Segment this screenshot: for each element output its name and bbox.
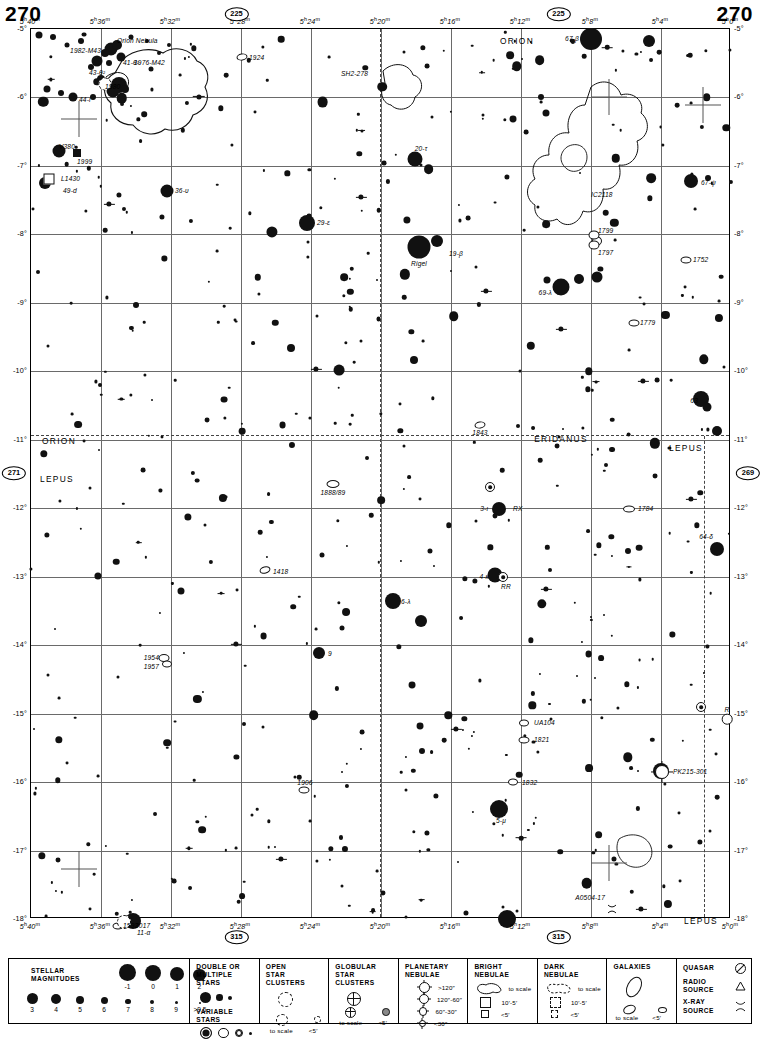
star: [137, 541, 140, 544]
star: [224, 73, 229, 78]
dec-tick-left: -6°: [17, 92, 27, 101]
galaxy-marker: [519, 737, 530, 744]
star: [307, 213, 312, 218]
star: [419, 498, 422, 501]
star: [341, 884, 344, 887]
star: [224, 496, 227, 499]
adjacent-chart-badge[interactable]: 269: [736, 466, 760, 480]
dec-tick-left: -16°: [13, 777, 27, 786]
galaxy-marker: [681, 257, 692, 264]
star: [657, 49, 662, 54]
planetary-nebula-marker: [655, 765, 669, 779]
adjacent-chart-badge[interactable]: 271: [2, 466, 26, 480]
galaxy-marker: [162, 661, 172, 668]
star: [638, 658, 641, 661]
registration-mark: [61, 101, 97, 137]
object-label-19beta: 19-β: [449, 251, 463, 258]
star: [443, 50, 445, 52]
star: [337, 386, 340, 389]
dec-tick-right: -14°: [734, 640, 748, 649]
star: [183, 652, 185, 654]
legend-bright-mid-text: 10′-5′: [501, 999, 517, 1006]
galaxy-marker: [623, 506, 635, 513]
legend-planetary-title-2: NEBULAE: [405, 971, 463, 979]
star: [699, 355, 708, 364]
legend-stellar-title-1: STELLAR: [31, 967, 80, 975]
magnitude-label: 0: [151, 983, 155, 990]
star: [637, 770, 639, 772]
star: [646, 174, 656, 184]
star: [616, 706, 619, 709]
star: [536, 205, 539, 208]
magnitude-label: -1: [125, 983, 131, 990]
star: [558, 849, 564, 855]
star: [82, 32, 87, 37]
legend-quasar-title: QUASAR: [683, 964, 714, 972]
star: [279, 422, 286, 429]
star: [267, 846, 270, 849]
star: [258, 530, 263, 535]
star: [83, 439, 86, 442]
star: [317, 96, 328, 107]
star: [98, 449, 100, 451]
galaxy-large-icon: [627, 976, 671, 1002]
ra-tick-top: 5h16m: [440, 16, 461, 26]
star: [459, 616, 463, 620]
constellation-label: ORION: [500, 36, 534, 46]
registration-mark: [61, 851, 97, 887]
adjacent-chart-badge[interactable]: 225: [546, 7, 570, 21]
dec-tick-left: -18°: [13, 914, 27, 923]
star: [431, 397, 434, 400]
registration-mark: [591, 845, 627, 881]
star: [376, 317, 381, 322]
star: [329, 858, 331, 860]
star: [538, 94, 544, 100]
star: [181, 128, 185, 132]
star: [208, 559, 212, 563]
object-label-ngc1843: 1843: [472, 430, 487, 437]
magnitude-label: 1: [175, 983, 179, 990]
object-label-ic2118: IC2118: [591, 192, 613, 199]
star: [701, 428, 703, 430]
star: [694, 523, 699, 528]
object-label-sh2-278: SH2-278: [341, 71, 368, 78]
star: [599, 655, 605, 661]
star: [116, 675, 119, 678]
ra-tick-top: 5h8m: [582, 16, 598, 26]
star: [649, 58, 653, 62]
legend-galaxy-small-text: <5′: [652, 1014, 661, 1021]
star: [122, 503, 124, 505]
adjacent-chart-badge[interactable]: 315: [546, 930, 570, 944]
star: [523, 229, 526, 232]
object-label-ngc1784: 1784: [638, 506, 653, 513]
star: [628, 566, 630, 568]
star: [694, 208, 697, 211]
star: [428, 548, 433, 553]
globular-cluster-large-icon: [347, 992, 393, 1006]
star: [424, 165, 434, 175]
legend-open-clusters: OPEN STAR CLUSTERS to scale <5′: [260, 959, 330, 1023]
dec-tick-right: -9°: [734, 297, 744, 306]
star: [131, 231, 133, 233]
star: [266, 556, 268, 558]
star: [651, 658, 654, 661]
star: [595, 380, 598, 383]
adjacent-chart-badge[interactable]: 225: [224, 7, 248, 21]
star: [101, 49, 109, 57]
star: [349, 267, 353, 271]
star: [313, 647, 325, 659]
dark-nebula-mid-icon: [550, 997, 561, 1008]
star: [638, 578, 641, 581]
adjacent-chart-badge[interactable]: 315: [224, 930, 248, 944]
star: [420, 163, 423, 166]
star: [576, 675, 578, 677]
star: [663, 782, 666, 785]
star: [126, 852, 129, 855]
grid-line-ra: [101, 29, 102, 917]
ra-tick-bottom: 5h40m: [20, 921, 41, 931]
star: [194, 478, 199, 483]
object-label-a0504: A0504-17: [575, 895, 605, 902]
star: [178, 74, 181, 77]
star: [151, 399, 153, 401]
star: [64, 162, 69, 167]
